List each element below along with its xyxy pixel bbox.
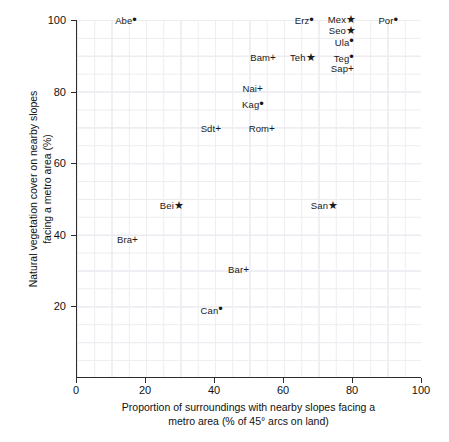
x-tick-mark [421, 378, 422, 383]
y-tick-label: 60 [54, 157, 66, 169]
data-point-label: Sdt [201, 123, 216, 134]
data-point-label: Abe [115, 15, 132, 26]
plot-area [76, 20, 421, 378]
data-point-label: Ula [335, 37, 350, 48]
data-point: Bam+ [250, 53, 276, 63]
marker-dot-icon: • [132, 14, 137, 24]
y-tick-mark [71, 235, 76, 236]
y-tick-label: 80 [54, 86, 66, 98]
marker-dot-icon: • [394, 14, 399, 24]
data-point: Sdt+ [201, 124, 221, 134]
y-tick-label: 100 [48, 14, 66, 26]
marker-star-icon: ★ [174, 201, 184, 211]
marker-dot-icon: • [349, 52, 354, 62]
x-axis-label-line1: Proportion of surroundings with nearby s… [76, 400, 421, 414]
x-tick-mark [214, 378, 215, 383]
data-point: Bar+ [228, 265, 249, 275]
x-tick-label: 80 [346, 384, 358, 396]
data-point: Por• [378, 15, 398, 26]
x-tick-mark [145, 378, 146, 383]
x-axis-label: Proportion of surroundings with nearby s… [76, 400, 421, 428]
marker-dot-icon: • [218, 304, 223, 314]
marker-star-icon: ★ [328, 201, 338, 211]
marker-plus-icon: + [215, 124, 221, 134]
data-point: Sap+ [331, 64, 354, 74]
data-point-label: Teg [334, 53, 350, 64]
data-point: Kag• [242, 99, 264, 110]
y-tick-mark [71, 163, 76, 164]
marker-plus-icon: + [243, 265, 249, 275]
data-point-label: Mex [328, 14, 346, 25]
x-tick-mark [76, 378, 77, 383]
data-point-label: Kag [242, 99, 259, 110]
data-point-label: Erz [295, 15, 310, 26]
x-tick-mark [352, 378, 353, 383]
data-point-label: Bei [160, 200, 174, 211]
data-point: Teh★ [290, 53, 316, 63]
data-point: San★ [311, 201, 338, 211]
scatter-plot-figure: 02040608010020406080100 Abe•Erz•Mex★Por•… [0, 0, 449, 442]
data-point: Ula• [335, 37, 354, 48]
data-point-label: Bar [228, 264, 243, 275]
marker-dot-icon: • [349, 36, 354, 46]
y-tick-label: 20 [54, 300, 66, 312]
x-tick-label: 100 [412, 384, 430, 396]
marker-star-icon: ★ [346, 15, 356, 25]
marker-dot-icon: • [309, 14, 314, 24]
x-tick-label: 60 [277, 384, 289, 396]
x-axis-label-line2: metro area (% of 45° arcs on land) [76, 414, 421, 428]
y-axis-label: Natural vegetation cover on nearby slope… [26, 39, 54, 339]
marker-plus-icon: + [257, 84, 263, 94]
data-point-label: Rom [249, 123, 269, 134]
data-point: Bra+ [117, 235, 138, 245]
y-tick-mark [71, 92, 76, 93]
data-point-label: Bra [117, 234, 132, 245]
data-point-label: Bam [250, 52, 270, 63]
marker-plus-icon: + [132, 235, 138, 245]
x-tick-mark [283, 378, 284, 383]
data-point: Bei★ [160, 201, 184, 211]
marker-plus-icon: + [269, 124, 275, 134]
data-point-label: Sap [331, 63, 348, 74]
data-point: Teg• [334, 53, 354, 64]
data-point: Can• [201, 305, 223, 316]
marker-plus-icon: + [348, 64, 354, 74]
data-point-label: Por [378, 15, 393, 26]
y-axis-label-line1: Natural vegetation cover on nearby slope… [26, 39, 40, 339]
y-axis-label-line2: facing a metro area (%) [40, 39, 54, 339]
x-tick-label: 40 [208, 384, 220, 396]
x-tick-label: 0 [73, 384, 79, 396]
data-point: Nai+ [242, 84, 262, 94]
data-point: Erz• [295, 15, 314, 26]
y-tick-label: 40 [54, 229, 66, 241]
data-point-label: Seo [329, 25, 346, 36]
x-tick-label: 20 [139, 384, 151, 396]
data-point-label: Teh [290, 52, 306, 63]
data-point-label: San [311, 200, 328, 211]
marker-star-icon: ★ [306, 53, 316, 63]
data-point: Abe• [115, 15, 137, 26]
data-point-label: Nai [242, 83, 257, 94]
marker-plus-icon: + [270, 53, 276, 63]
data-point: Rom+ [249, 124, 275, 134]
data-point-label: Can [201, 305, 219, 316]
y-tick-mark [71, 306, 76, 307]
marker-dot-icon: • [259, 98, 264, 108]
y-tick-mark [71, 20, 76, 21]
data-point: Mex★ [328, 15, 356, 25]
